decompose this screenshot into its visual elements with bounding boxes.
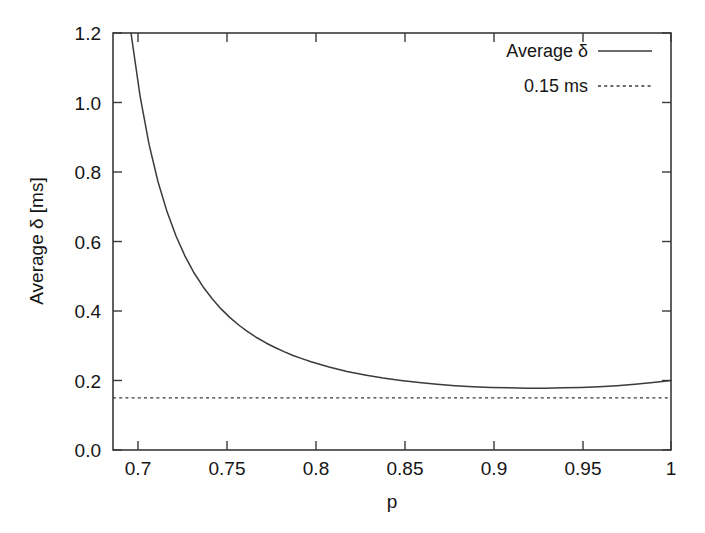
x-tick-label: 0.85	[387, 458, 424, 479]
y-axis-title: Average δ [ms]	[26, 177, 47, 304]
x-tick-label: 0.7	[125, 458, 151, 479]
y-tick-label: 1.2	[75, 23, 101, 44]
chart-figure: 0.7 0.75 0.8 0.85 0.9 0.95 1 0.0 0.2 0.4…	[0, 0, 705, 533]
y-tick-label: 0.0	[75, 440, 101, 461]
y-tick-label: 1.0	[75, 93, 101, 114]
x-tick-label: 0.95	[565, 458, 602, 479]
chart-background	[0, 0, 705, 533]
x-axis-title: p	[387, 491, 398, 512]
y-tick-label: 0.8	[75, 162, 101, 183]
y-tick-label: 0.4	[75, 301, 102, 322]
x-tick-label: 1	[666, 458, 677, 479]
legend-label-threshold: 0.15 ms	[524, 76, 588, 96]
x-tick-label: 0.75	[209, 458, 246, 479]
line-chart: 0.7 0.75 0.8 0.85 0.9 0.95 1 0.0 0.2 0.4…	[0, 0, 705, 533]
x-tick-label: 0.8	[303, 458, 329, 479]
x-tick-label: 0.9	[481, 458, 507, 479]
y-tick-label: 0.2	[75, 371, 101, 392]
y-tick-label: 0.6	[75, 232, 101, 253]
legend-label-average-delta: Average δ	[506, 41, 588, 61]
